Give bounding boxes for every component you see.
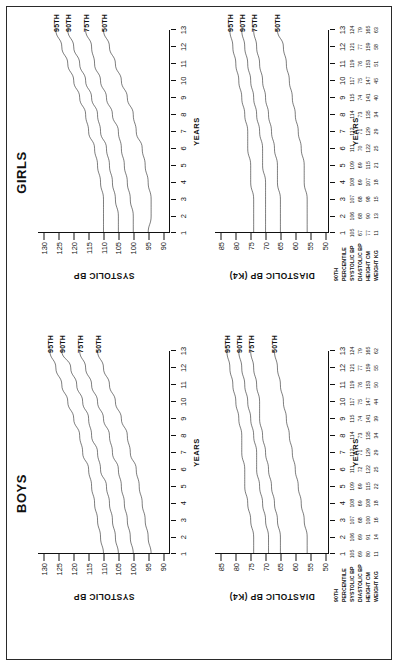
boys-systolic-x-ticks: [169, 351, 176, 554]
tick-mark-icon: [163, 554, 164, 561]
boys-diastolic-y-tick: 80: [231, 554, 240, 571]
boys-diastolic-curve-95th: [227, 351, 254, 554]
boys-systolic-y-tick: 90: [159, 554, 168, 571]
boys-systolic-curve-label-90th: 90TH: [58, 335, 65, 353]
girls-table-cell: 74: [356, 95, 364, 101]
boys-table-cell: 79: [356, 348, 364, 354]
girls-table-cell: 77: [356, 44, 364, 50]
girls-systolic-curve-90th: [68, 30, 119, 233]
tick-mark-icon: [325, 554, 326, 561]
boys-column: BOYS SYSTOLIC BP 90951001051101151201251…: [12, 333, 386, 654]
tick-mark-icon: [44, 233, 45, 240]
boys-systolic-y-tick: 125: [54, 554, 63, 576]
girls-table-row-labels: 90THPERCENTILESYSTOLIC BPDIASTOLIC BPHEI…: [332, 235, 380, 281]
boys-systolic-x-tick-label: 1: [179, 552, 188, 556]
tick-mark-icon: [44, 554, 45, 561]
boys-table-cell: 165: [364, 347, 372, 356]
boys-systolic-y-tick: 100: [129, 554, 138, 576]
boys-table-cell: 114: [348, 431, 356, 439]
boys-table-row-label: SYSTOLIC BP: [348, 556, 356, 602]
girls-table-cell: 109: [348, 161, 356, 170]
boys-table-cell: 121: [348, 364, 356, 373]
girls-table-cell: 15: [372, 196, 380, 202]
boys-diastolic-canvas: 95TH90TH75TH50TH: [215, 351, 328, 554]
girls-diastolic-y-tick: 55: [306, 233, 315, 250]
girls-table-cell: 18: [372, 179, 380, 185]
boys-diastolic-y-tick: 75: [246, 554, 255, 571]
girls-table-cell: 25: [372, 146, 380, 152]
girls-table-cell: 107: [364, 178, 372, 187]
girls-table-cell: 79: [356, 27, 364, 33]
boys-systolic-plot: SYSTOLIC BP 9095100105110115120125130 95…: [38, 351, 169, 602]
boys-table-cell: 25: [372, 467, 380, 473]
girls-table-cell: 77: [364, 230, 372, 236]
boys-diastolic-curve-label-95th: 95TH: [223, 335, 230, 353]
girls-diastolic-y-tick-label: 85: [216, 242, 225, 250]
boys-table-cell: 74: [356, 416, 364, 422]
tick-mark-icon: [266, 233, 267, 240]
girls-systolic-canvas: 95TH90TH75TH50TH: [38, 30, 169, 233]
boys-table-cell: 44: [372, 399, 380, 405]
girls-table-row: 11131518212529344045515863: [372, 30, 380, 233]
boys-diastolic-curve-label-75th: 75TH: [247, 335, 254, 353]
boys-systolic-y-tick: 120: [69, 554, 78, 576]
boys-table-cell: 18: [372, 500, 380, 506]
girls-systolic-curve-95th: [56, 30, 104, 233]
girls-table-cell: 147: [364, 76, 372, 85]
tick-mark-icon: [280, 554, 281, 561]
boys-table-cell: 119: [348, 381, 356, 389]
girls-table-cell: 115: [348, 94, 356, 102]
girls-table-cell: 11: [372, 230, 380, 235]
girls-systolic-x-tick-label: 2: [179, 214, 188, 218]
girls-systolic-curve-75th: [86, 30, 134, 233]
tick-mark-icon: [310, 554, 311, 561]
boys-diastolic-curve-label-50th: 50TH: [271, 335, 278, 353]
girls-systolic-y-tick-label: 90: [159, 242, 168, 250]
boys-diastolic-y-tick: 70: [261, 554, 270, 571]
girls-table-cell: 153: [364, 60, 372, 69]
girls-table-cell: 114: [348, 110, 356, 118]
tick-mark-icon: [251, 554, 252, 561]
boys-systolic-y-tick: 130: [39, 554, 48, 576]
boys-table-cell: 69: [356, 483, 364, 489]
boys-diastolic-y-tick: 85: [216, 554, 225, 571]
boys-data-table: 90THPERCENTILESYSTOLIC BPDIASTOLIC BPHEI…: [332, 351, 384, 602]
boys-table-cell: 75: [356, 399, 364, 405]
girls-diastolic-y-tick-label: 50: [321, 242, 330, 250]
girls-systolic-curve-50th: [104, 30, 152, 233]
girls-table-cell: 90: [364, 213, 372, 219]
girls-table-row-label: PERCENTILE: [340, 235, 348, 281]
boys-systolic-x-tick-label: 5: [179, 484, 188, 488]
boys-diastolic-y-axis-label: DIASTOLIC BP (K4): [215, 590, 328, 604]
boys-table-header: 90TH: [332, 556, 340, 602]
boys-table-cell: 39: [372, 416, 380, 422]
girls-table-cell: 75: [356, 78, 364, 84]
girls-diastolic-y-tick: 50: [321, 233, 330, 250]
boys-diastolic-y-ticks: 5055606570758085: [215, 554, 328, 588]
girls-table-cell: 29: [372, 129, 380, 135]
girls-systolic-curve-label-90th: 90TH: [64, 14, 71, 32]
tick-mark-icon: [133, 233, 134, 240]
girls-systolic-x-tick-labels: 12345678910111213: [176, 30, 188, 233]
girls-systolic-y-ticks: 9095100105110115120125130: [38, 233, 169, 267]
boys-diastolic-plot: DIASTOLIC BP (K4) 5055606570758085 95TH9…: [215, 351, 328, 602]
boys-table-cell: 115: [348, 415, 356, 423]
tick-mark-icon: [148, 554, 149, 561]
girls-table-row-label: HEIGHT CM: [364, 235, 372, 281]
girls-column: GIRLS SYSTOLIC BP 9095100105110115120125…: [12, 12, 386, 333]
girls-table-cell: 129: [364, 127, 372, 136]
tick-mark-icon: [221, 233, 222, 240]
girls-diastolic-y-tick-label: 80: [231, 242, 240, 250]
boys-systolic-y-tick-label: 115: [84, 563, 93, 575]
girls-systolic-y-tick-label: 115: [84, 242, 93, 254]
girls-systolic-y-tick-label: 120: [69, 242, 78, 255]
girls-table-cell: 141: [364, 93, 372, 102]
tick-mark-icon: [59, 554, 60, 561]
girls-diastolic-y-tick: 80: [231, 233, 240, 250]
boys-diastolic-y-tick-label: 55: [306, 563, 315, 571]
girls-systolic-y-tick: 110: [99, 233, 108, 254]
girls-systolic-y-tick: 120: [69, 233, 78, 255]
girls-table-cell: 165: [364, 26, 372, 35]
girls-table-cell: 34: [372, 112, 380, 118]
boys-table-row: 69696869697271737475767779: [356, 351, 364, 554]
